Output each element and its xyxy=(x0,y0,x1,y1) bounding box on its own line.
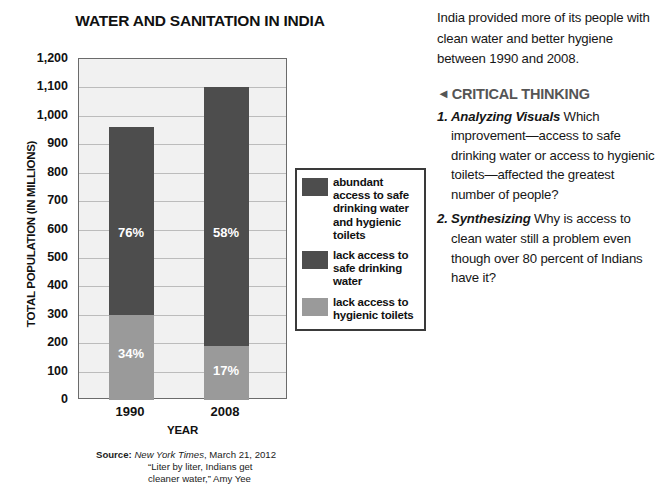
question-body: Synthesizing Why is access to clean wate… xyxy=(451,209,656,287)
y-axis-tick-labels: 1,2001,1001,0009008007006005004003002001… xyxy=(0,58,72,399)
source-label: Source: xyxy=(96,449,132,460)
x-axis-category-2008: 2008 xyxy=(185,404,265,419)
y-axis-tick-label: 600 xyxy=(47,222,68,236)
x-axis-category-1990: 1990 xyxy=(90,404,170,419)
y-axis-tick-label: 500 xyxy=(47,250,68,264)
chart-title: WATER AND SANITATION IN INDIA xyxy=(0,12,400,30)
question-item: 1. Analyzing Visuals Which improvement—a… xyxy=(437,107,656,205)
y-axis-tick-label: 0 xyxy=(61,392,68,406)
legend-swatch-lack-safe-water xyxy=(302,251,328,269)
question-number: 2. xyxy=(437,209,451,287)
y-axis-tick-label: 300 xyxy=(47,307,68,321)
bar-segment-dark-2008 xyxy=(204,87,249,346)
bar-segment-label: 76% xyxy=(109,225,154,240)
legend-swatch-abundant-access xyxy=(302,178,328,196)
figure-water-sanitation-india: WATER AND SANITATION IN INDIA TOTAL POPU… xyxy=(0,0,430,497)
intro-paragraph: India provided more of its people with c… xyxy=(437,8,656,70)
source-date: , March 21, 2012 xyxy=(204,449,276,460)
y-axis-tick-label: 1,100 xyxy=(37,79,68,93)
legend-item: abundant access to safe drinking water a… xyxy=(302,176,418,242)
question-lead: Synthesizing xyxy=(451,211,531,226)
left-triangle-icon: ◄ xyxy=(437,87,450,100)
bar-2008: 58%17% xyxy=(204,59,249,400)
text-column: India provided more of its people with c… xyxy=(437,0,656,497)
bar-1990: 76%34% xyxy=(109,59,154,400)
y-axis-tick-label: 700 xyxy=(47,193,68,207)
x-axis-title: YEAR xyxy=(78,424,287,436)
bar-segment-label: 17% xyxy=(204,363,249,378)
legend-label-abundant-access: abundant access to safe drinking water a… xyxy=(333,176,418,242)
source-line-2: “Liter by liter, Indians get xyxy=(96,461,396,473)
y-axis-tick-label: 100 xyxy=(47,364,68,378)
source-publication: New York Times xyxy=(134,449,204,460)
legend-swatch-lack-hygienic-toilets xyxy=(302,298,328,316)
plot-area: 76%34%58%17% xyxy=(78,58,287,399)
y-axis-tick-label: 1,000 xyxy=(37,108,68,122)
y-axis-tick-label: 1,200 xyxy=(37,51,68,65)
question-lead: Analyzing Visuals xyxy=(451,109,560,124)
bar-segment-label: 58% xyxy=(204,225,249,240)
chart-legend: abundant access to safe drinking water a… xyxy=(295,168,426,331)
y-axis-tick-label: 900 xyxy=(47,136,68,150)
question-item: 2. Synthesizing Why is access to clean w… xyxy=(437,209,656,287)
bar-segment-label: 34% xyxy=(109,346,154,361)
critical-thinking-label: CRITICAL THINKING xyxy=(452,86,590,102)
critical-thinking-heading: ◄ CRITICAL THINKING xyxy=(437,86,656,102)
y-axis-tick-label: 400 xyxy=(47,278,68,292)
source-line-3: cleaner water,” Amy Yee xyxy=(96,473,396,485)
bar-segment-dark-1990 xyxy=(109,127,154,315)
legend-item: lack access to safe drinking water xyxy=(302,249,418,289)
question-body: Analyzing Visuals Which improvement—acce… xyxy=(451,107,656,205)
legend-item: lack access to hygienic toilets xyxy=(302,296,418,322)
question-number: 1. xyxy=(437,107,451,205)
y-axis-tick-label: 200 xyxy=(47,335,68,349)
y-axis-tick-label: 800 xyxy=(47,165,68,179)
legend-label-lack-hygienic-toilets: lack access to hygienic toilets xyxy=(333,296,418,322)
source-citation: Source: New York Times, March 21, 2012 “… xyxy=(96,449,396,485)
legend-label-lack-safe-water: lack access to safe drinking water xyxy=(333,249,418,289)
